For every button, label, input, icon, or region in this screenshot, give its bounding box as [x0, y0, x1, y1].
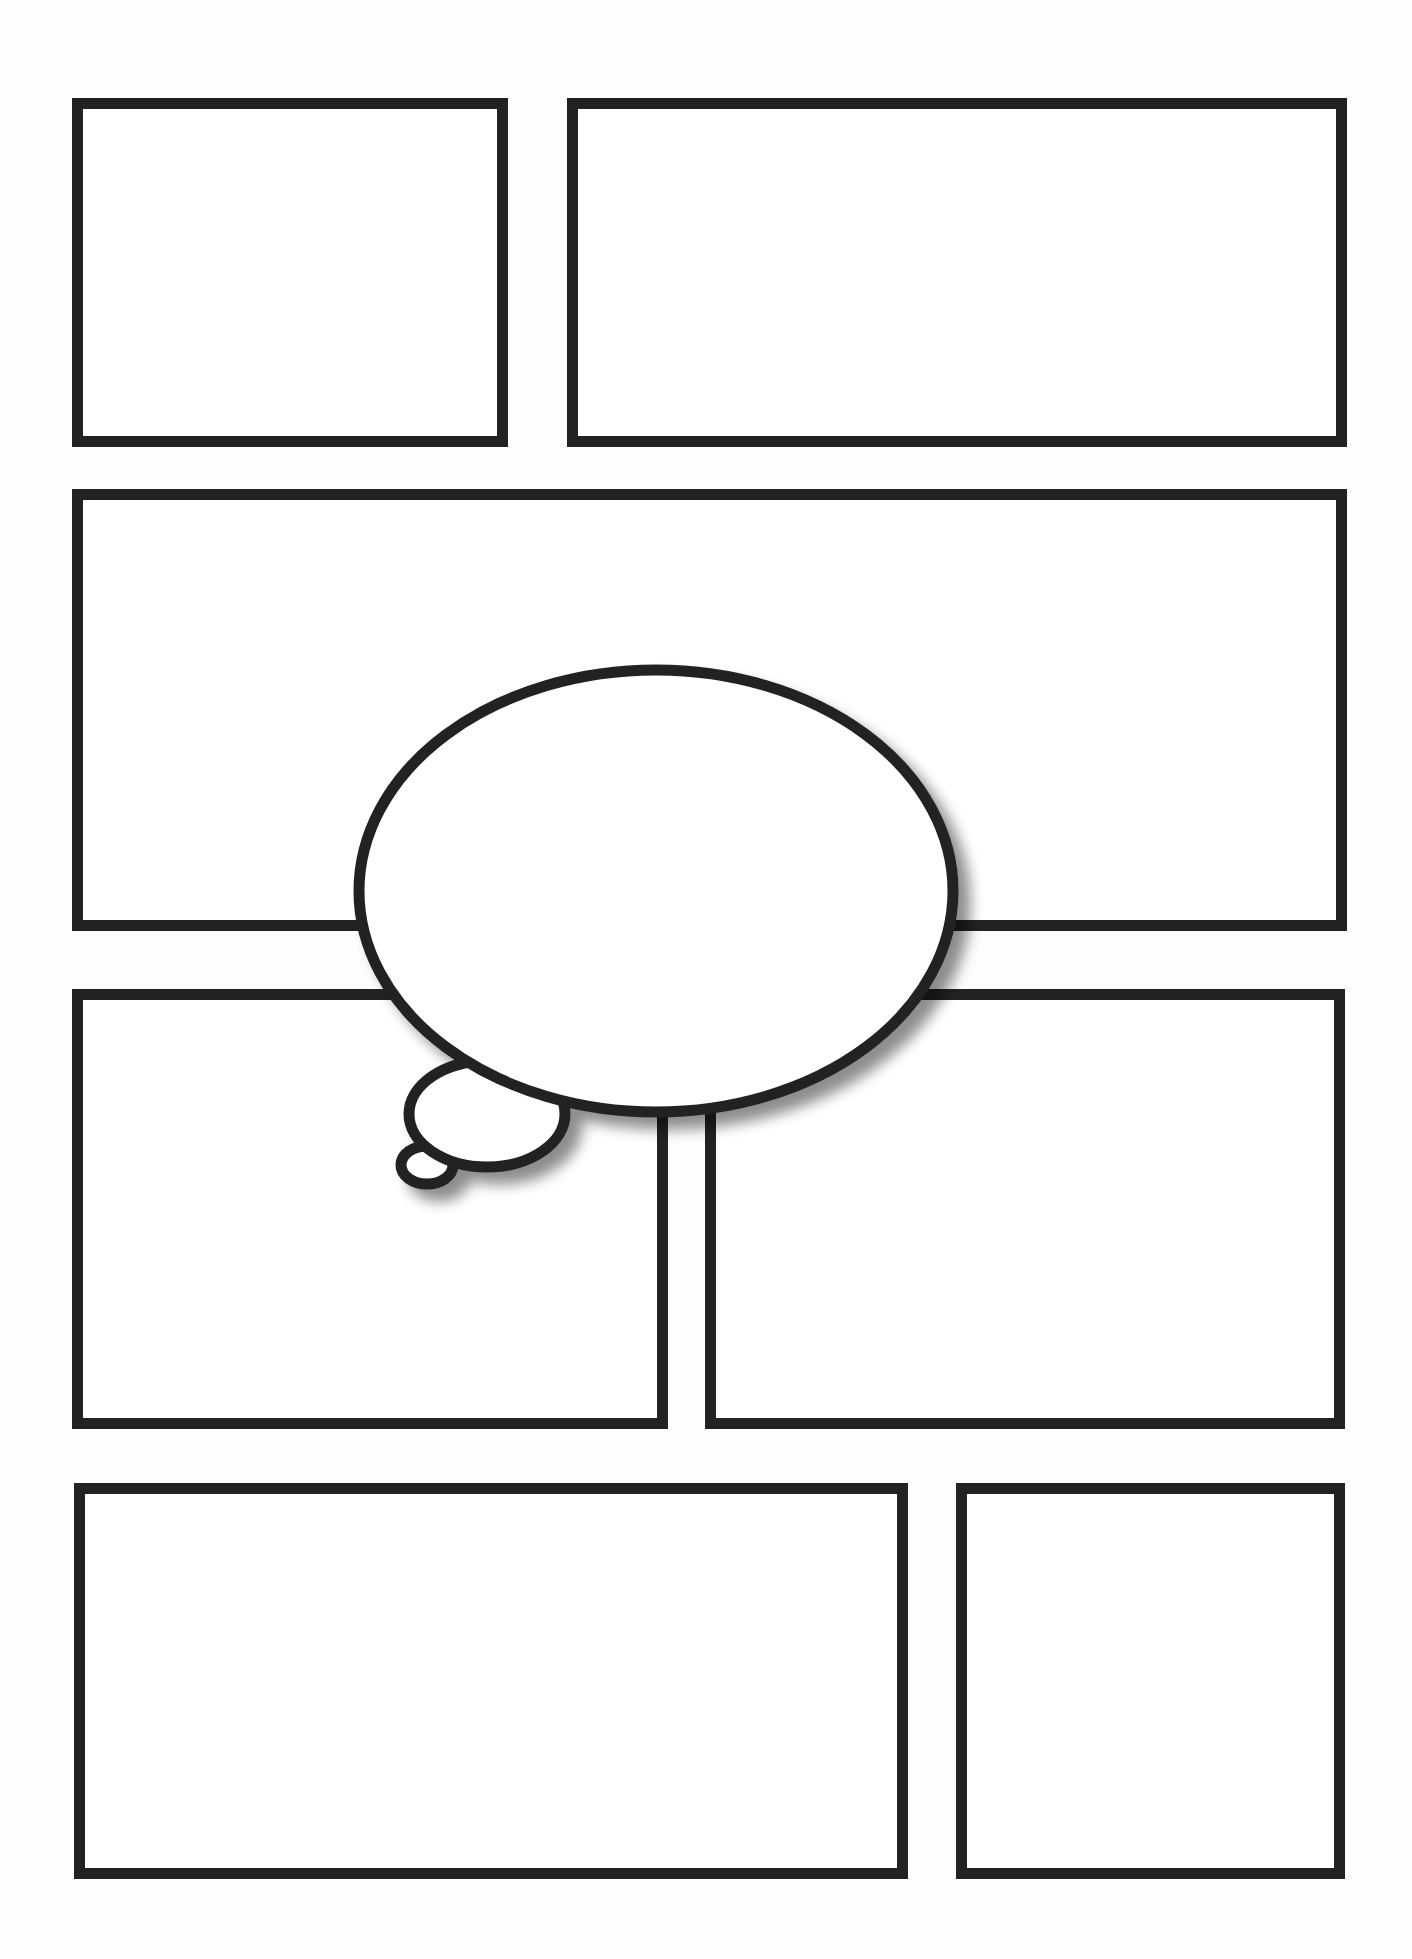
thought-bubble: [0, 0, 1412, 1959]
thought-bubble-main[interactable]: [359, 670, 953, 1112]
